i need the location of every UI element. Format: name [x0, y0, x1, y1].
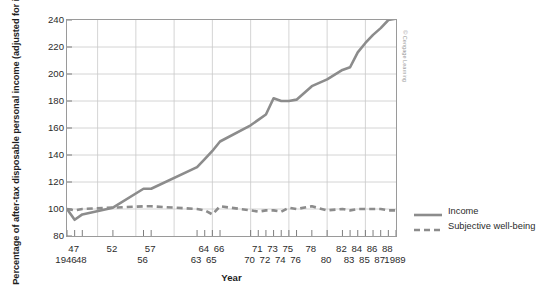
- y-axis-tick-label: 200: [38, 68, 64, 79]
- x-axis-tick-label: 86: [367, 243, 378, 254]
- series-line-income: [67, 20, 396, 220]
- x-axis-tick-label: 73: [267, 243, 278, 254]
- x-axis-tick-label: 56: [137, 254, 148, 265]
- x-axis-tick-label: 83: [344, 254, 355, 265]
- chart-figure: Percentage of after-tax disposable perso…: [0, 0, 560, 292]
- y-axis-tick-label: 180: [38, 95, 64, 106]
- x-axis-tick-label: 1946: [55, 254, 76, 265]
- x-axis-tick-label: 78: [305, 243, 316, 254]
- x-axis-tick-labels: 4752576466717375788284868819464856636570…: [0, 238, 560, 272]
- copyright-text: © Cengage Learning: [402, 30, 408, 82]
- plot-area: [66, 19, 397, 237]
- legend-swatch-solid: [414, 206, 442, 216]
- x-axis-tick-label: 74: [275, 254, 286, 265]
- x-axis-tick-label: 57: [145, 243, 156, 254]
- x-axis-tick-label: 72: [260, 254, 271, 265]
- x-axis-tick-label: 88: [382, 243, 393, 254]
- x-axis-title: Year: [66, 272, 397, 283]
- x-axis-tick-label: 85: [359, 254, 370, 265]
- copyright-credit: © Cengage Learning: [399, 16, 411, 96]
- y-axis-tick-label: 240: [38, 14, 64, 25]
- x-axis-tick-label: 84: [351, 243, 362, 254]
- y-axis-tick-label: 220: [38, 41, 64, 52]
- x-axis-tick-label: 65: [206, 254, 217, 265]
- series-line-wellbeing: [67, 206, 396, 214]
- y-axis-tick-label: 140: [38, 149, 64, 160]
- x-axis-tick-label: 70: [244, 254, 255, 265]
- x-axis-tick-label: 47: [68, 243, 79, 254]
- x-axis-tick-label: 63: [191, 254, 202, 265]
- legend-swatch-dashed: [414, 221, 442, 231]
- x-axis-tick-label: 71: [252, 243, 263, 254]
- x-axis-tick-label: 48: [76, 254, 87, 265]
- x-axis-tick-label: 66: [214, 243, 225, 254]
- x-axis-tick-label: 80: [321, 254, 332, 265]
- x-axis-tick-label: 82: [336, 243, 347, 254]
- legend-item: Subjective well-being: [414, 218, 556, 233]
- x-axis-tick-label: 76: [290, 254, 301, 265]
- y-axis-tick-label: 120: [38, 176, 64, 187]
- x-axis-tick-label: 1989: [384, 254, 405, 265]
- y-axis-tick-label: 160: [38, 122, 64, 133]
- legend-label: Income: [448, 206, 479, 216]
- x-axis-tick-label: 75: [283, 243, 294, 254]
- y-axis-title-container: Percentage of after-tax disposable perso…: [0, 0, 34, 248]
- x-axis-tick-label: 64: [198, 243, 209, 254]
- chart-legend: IncomeSubjective well-being: [414, 203, 556, 233]
- legend-item: Income: [414, 203, 556, 218]
- x-axis-tick-label: 52: [107, 243, 118, 254]
- legend-label: Subjective well-being: [448, 221, 535, 231]
- y-axis-tick-label: 100: [38, 203, 64, 214]
- chart-svg: [67, 20, 396, 236]
